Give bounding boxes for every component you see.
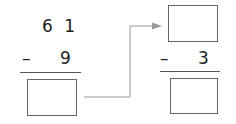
right-minus-sign: – — [160, 50, 169, 67]
right-answer-rule — [160, 71, 220, 72]
right-minuend-box[interactable] — [168, 5, 218, 42]
arrow-head-icon — [152, 23, 162, 30]
right-subtrahend: 3 — [198, 50, 209, 67]
right-answer-box[interactable] — [170, 78, 218, 114]
